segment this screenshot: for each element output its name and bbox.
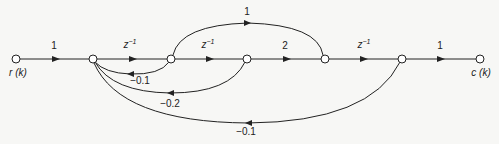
branch-n3-n1 — [95, 62, 245, 93]
branch-n2-n4 — [173, 23, 323, 55]
node-n3 — [243, 55, 251, 63]
node-n5 — [398, 55, 406, 63]
node-n1 — [89, 55, 97, 63]
input-label: r (k) — [9, 67, 27, 78]
node-n6 — [476, 55, 484, 63]
output-label: c (k) — [471, 67, 490, 78]
gain-n2-n1: −0.1 — [130, 75, 150, 86]
gain-n3-n4: 2 — [282, 40, 288, 51]
arrow-fb2 — [167, 90, 174, 96]
branch-n5-n1 — [94, 62, 400, 123]
gain-n5-n1: −0.1 — [236, 126, 256, 137]
gain-n2-n4: 1 — [244, 6, 250, 17]
node-n4 — [321, 55, 329, 63]
arrow-top — [244, 20, 251, 26]
gain-n3-n1: −0.2 — [160, 98, 180, 109]
gain-n5-n6: 1 — [437, 40, 443, 51]
gain-n0-n1: 1 — [51, 40, 57, 51]
gain-n2-n3: z−1 — [202, 38, 215, 50]
gain-n4-n5: z−1 — [358, 38, 371, 50]
signal-flow-graph — [0, 0, 499, 144]
node-n2 — [167, 55, 175, 63]
gain-n1-n2: z−1 — [124, 38, 137, 50]
node-n0 — [12, 55, 20, 63]
